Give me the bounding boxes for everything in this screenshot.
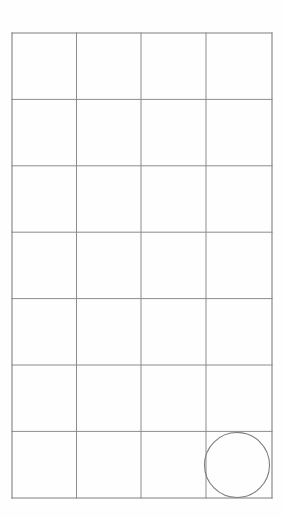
shapes-layer [205,433,270,498]
grid-vertical-lines [12,33,272,498]
inscribed-circle [205,433,270,498]
grid-horizontal-lines [12,33,272,498]
figure-canvas [0,0,284,517]
grid-figure [0,0,284,517]
